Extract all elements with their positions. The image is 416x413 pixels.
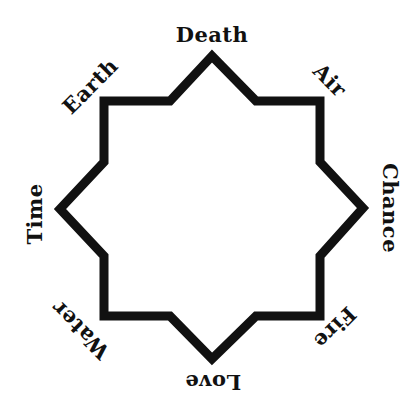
star-diagram: Death Air Chance Fire Love Water Time Ea… <box>0 0 416 413</box>
label-time: Time <box>24 183 45 244</box>
label-chance: Chance <box>380 163 401 253</box>
star-outline <box>0 0 416 413</box>
label-love: Love <box>185 372 241 393</box>
label-death: Death <box>176 24 249 45</box>
